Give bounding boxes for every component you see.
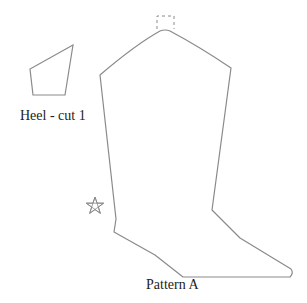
pattern-diagram xyxy=(0,0,307,303)
heel-piece-outline xyxy=(30,45,73,95)
heel-piece-label: Heel - cut 1 xyxy=(20,109,86,123)
notch-marker xyxy=(157,16,174,29)
star-icon xyxy=(86,197,103,213)
pattern-a-label: Pattern A xyxy=(146,278,199,292)
boot-pattern-outline xyxy=(100,30,292,277)
